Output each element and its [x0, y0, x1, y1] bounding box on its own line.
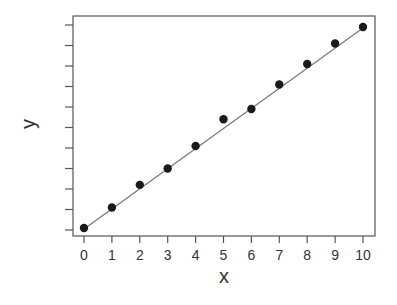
- plot-border: [73, 16, 375, 236]
- x-tick-label: 6: [248, 247, 256, 263]
- x-tick-label: 8: [303, 247, 311, 263]
- x-tick-label: 0: [80, 247, 88, 263]
- x-tick-label: 1: [108, 247, 116, 263]
- data-point: [136, 181, 144, 189]
- x-axis-label: x: [219, 265, 229, 287]
- plot-frame: [73, 16, 375, 236]
- x-tick-label: 10: [355, 247, 371, 263]
- x-tick-label: 7: [275, 247, 283, 263]
- y-axis-ticks: [65, 25, 73, 230]
- data-point: [191, 142, 199, 150]
- data-point: [303, 60, 311, 68]
- x-tick-label: 3: [164, 247, 172, 263]
- regression-line: [84, 28, 363, 229]
- data-point: [80, 224, 88, 232]
- y-axis-label: y: [17, 119, 39, 129]
- x-tick-label: 9: [331, 247, 339, 263]
- data-point: [331, 39, 339, 47]
- x-tick-label: 4: [192, 247, 200, 263]
- x-tick-label: 5: [220, 247, 228, 263]
- x-axis-ticks: 012345678910: [80, 236, 371, 263]
- data-point: [275, 80, 283, 88]
- data-point: [108, 203, 116, 211]
- fit-line: [84, 28, 363, 229]
- data-point: [359, 23, 367, 31]
- scatter-chart: 012345678910 x y: [0, 0, 397, 305]
- data-point: [247, 105, 255, 113]
- x-tick-label: 2: [136, 247, 144, 263]
- data-point: [219, 115, 227, 123]
- data-point: [164, 164, 172, 172]
